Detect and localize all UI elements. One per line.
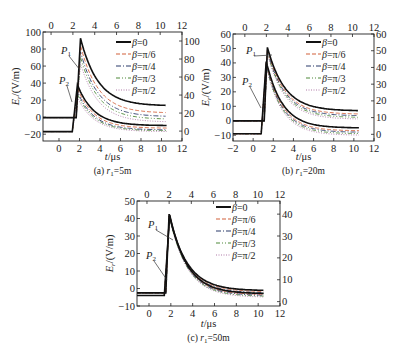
legend-item: β=π/2 (231, 250, 255, 261)
y-right-tick-label: 40 (282, 209, 293, 220)
x-bottom-tick-label: 12 (369, 143, 380, 154)
y-left-tick-label: 40 (221, 57, 232, 68)
y-left-tick-label: 0 (36, 112, 41, 123)
x-top-tick-label: 6 (307, 22, 312, 33)
y-left-tick-label: −10 (215, 130, 231, 141)
x-top-tick-label: 2 (167, 189, 172, 200)
x-top-tick-label: 2 (70, 20, 75, 31)
y-left-tick-label: 60 (31, 61, 42, 72)
y-left-tick-label: 10 (221, 101, 232, 112)
y-right-tick-label: 40 (376, 62, 387, 73)
x-bottom-tick-label: 4 (97, 143, 103, 154)
legend-item: β=π/2 (321, 85, 345, 96)
annotation-p2: P2 (58, 75, 69, 88)
y-left-tick-label: 10 (125, 266, 136, 277)
legend-item: β=π/4 (131, 61, 155, 72)
y-left-tick-label: 40 (31, 78, 42, 89)
y-left-tick-label: 60 (221, 29, 232, 40)
x-top-tick-label: 12 (177, 20, 188, 31)
panel-caption: (a) r1=5m (94, 166, 132, 178)
legend-item: β=π/2 (131, 85, 155, 96)
x-bottom-tick-label: −2 (227, 143, 238, 154)
x-top-tick-label: 8 (136, 20, 141, 31)
y-left-tick-label: 20 (31, 95, 42, 106)
x-axis-label: t/μs (201, 318, 217, 329)
x-top-tick-label: 2 (264, 22, 269, 33)
y-right-tick-label: 50 (376, 45, 387, 56)
annotation-pointer (67, 86, 72, 102)
legend-item: β=0 (131, 37, 148, 48)
legend-item: β=π/6 (321, 49, 345, 60)
x-bottom-tick-label: 0 (251, 143, 256, 154)
x-axis-label: t/μs (296, 151, 312, 162)
panel-caption: (b) r1=20m (282, 166, 326, 178)
x-bottom-tick-label: 12 (177, 143, 188, 154)
legend-item: β=π/3 (321, 73, 345, 84)
y-left-tick-label: 50 (221, 43, 232, 54)
y-right-tick-label: 40 (184, 90, 195, 101)
y-left-tick-label: 30 (221, 72, 232, 83)
annotation-pointer (154, 261, 167, 280)
legend-item: β=π/6 (131, 49, 155, 60)
y-left-tick-label: 0 (130, 283, 135, 294)
y-right-tick-label: 20 (184, 108, 195, 119)
x-bottom-tick-label: 0 (56, 143, 61, 154)
series-line (39, 94, 167, 131)
x-top-tick-label: 8 (328, 22, 333, 33)
x-bottom-tick-label: 2 (168, 308, 173, 319)
legend-item: β=π/4 (231, 226, 255, 237)
legend-item: β=0 (231, 202, 248, 213)
annotation-p2: P2 (145, 250, 156, 263)
x-top-tick-label: 4 (92, 20, 98, 31)
y-right-tick-label: 20 (282, 252, 293, 263)
annotation-pointer (69, 56, 80, 70)
legend-item: β=0 (321, 37, 338, 48)
x-bottom-tick-label: 12 (275, 308, 286, 319)
y-left-tick-label: 0 (226, 115, 231, 126)
y-right-tick-label: 30 (376, 79, 387, 90)
annotation-p1: P1 (60, 45, 71, 58)
legend: β=0β=π/6β=π/4β=π/3β=π/2 (116, 37, 155, 96)
x-bottom-tick-label: 8 (234, 308, 239, 319)
y-right-tick-label: 0 (282, 296, 287, 307)
y-axis-label: Er/(V/m) (10, 67, 23, 106)
x-top-tick-label: 8 (233, 189, 238, 200)
y-right-tick-label: 60 (184, 72, 195, 83)
chart-panel-1: −2024681012024681012−1001020304050600102… (200, 22, 387, 178)
y-right-tick-label: 100 (184, 36, 200, 47)
x-bottom-tick-label: 10 (349, 143, 360, 154)
x-top-tick-label: 0 (144, 189, 149, 200)
chart-panel-2: 024681012024681012−100102030405001020304… (104, 189, 293, 345)
y-right-tick-label: 60 (376, 29, 387, 40)
legend-item: β=π/3 (131, 73, 155, 84)
legend-item: β=π/6 (231, 214, 255, 225)
legend-item: β=π/4 (321, 61, 345, 72)
x-top-tick-label: 4 (189, 189, 195, 200)
legend: β=0β=π/6β=π/4β=π/3β=π/2 (306, 37, 345, 96)
x-bottom-tick-label: 0 (146, 308, 151, 319)
y-right-tick-label: 0 (376, 129, 381, 140)
legend-item: β=π/3 (231, 238, 255, 249)
x-bottom-tick-label: 2 (271, 143, 276, 154)
panel-caption: (c) r1=50m (187, 333, 230, 345)
annotation-pointer (156, 230, 173, 240)
y-left-tick-label: −10 (119, 301, 135, 312)
y-left-tick-label: 20 (221, 86, 232, 97)
y-right-tick-label: 10 (282, 274, 293, 285)
y-left-tick-label: 30 (125, 231, 136, 242)
x-top-tick-label: 6 (114, 20, 119, 31)
x-bottom-tick-label: 2 (77, 143, 82, 154)
y-left-tick-label: 80 (31, 44, 42, 55)
chart-panel-0: 024681012024681012−200204060801000204060… (10, 20, 200, 178)
y-right-tick-label: 20 (376, 95, 387, 106)
x-top-tick-label: 4 (285, 22, 291, 33)
series-line (39, 98, 167, 132)
x-top-tick-label: 12 (275, 189, 286, 200)
x-top-tick-label: 0 (48, 20, 53, 31)
y-right-tick-label: 30 (282, 231, 293, 242)
x-bottom-tick-label: 6 (311, 143, 316, 154)
y-left-tick-label: 20 (125, 248, 136, 259)
x-top-tick-label: 10 (253, 189, 264, 200)
y-left-tick-label: −20 (25, 129, 41, 140)
y-axis-label: Er/(V/m) (104, 234, 117, 273)
